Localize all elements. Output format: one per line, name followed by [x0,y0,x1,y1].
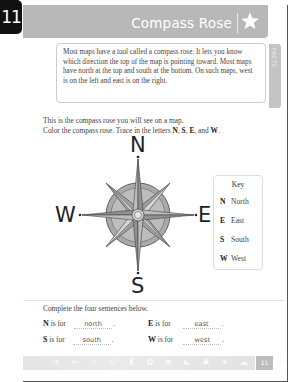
compass-letter-north: N [130,135,146,156]
sentence-east: E is foreast. [148,319,223,329]
sentence-north: N is fornorth. [43,319,115,329]
header-band: Compass Rose [23,5,268,38]
footer-page-number: 11 [256,356,273,370]
instructions-line-1: This is the compass rose you will see on… [43,116,273,126]
page-number-badge: 11 [0,0,22,34]
compass-key: Key NNorth EEast SSouth WWest [213,175,263,270]
facts-box: Most maps have a tool called a compass r… [56,43,266,103]
footer-decoration-strip: ✈ ✂ ☼ ⊙ ♜ ✿ ❀ ☯ ♣ ✦ ☁ ♞ ☂ [23,356,255,370]
sentence-west: W is forwest. [148,335,224,345]
compass-rose-icon [53,135,213,295]
instructions-line-2: Color the compass rose. Trace in the let… [43,126,273,136]
worksheet-page: Compass Rose Most maps have a tool calle… [23,5,288,382]
facts-tab: FACTS [269,44,281,108]
facts-tab-label: FACTS [271,48,277,68]
compass-rose: N S E W [53,135,213,295]
compass-letter-west: W [55,205,76,226]
compass-letter-east: E [198,205,211,226]
answer-field-west[interactable]: west [183,336,221,345]
page-title: Compass Rose [131,15,232,31]
facts-text: Most maps have a tool called a compass r… [63,48,252,85]
key-row-north: NNorth [220,197,249,206]
star-icon [240,11,260,31]
exercise-title: Complete the four sentences below. [43,304,148,313]
compass-letter-south: S [131,276,144,297]
answer-field-east[interactable]: east [183,320,221,329]
instructions: This is the compass rose you will see on… [43,116,273,135]
answer-field-south[interactable]: south [73,336,111,345]
header-divider [237,13,238,33]
key-title: Key [214,180,262,189]
key-row-west: WWest [220,254,246,263]
footer-decorative-icons: ✈ ✂ ☼ ⊙ ♜ ✿ ❀ ☯ ♣ ✦ ☁ ♞ ☂ [53,357,290,367]
key-row-east: EEast [220,216,244,225]
answer-field-north[interactable]: north [74,320,112,329]
section-divider [23,300,285,301]
key-row-south: SSouth [220,235,249,244]
sentence-south: S is forsouth. [43,335,114,345]
